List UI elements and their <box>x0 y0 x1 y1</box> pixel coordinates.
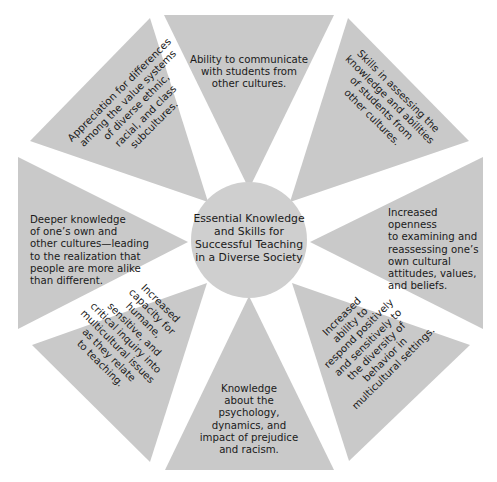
segment-label-left: Deeper knowledge of one’s own and other … <box>30 214 170 287</box>
segment-label-bottom: Knowledge about the psychology, dynamics… <box>190 383 308 456</box>
center-title: Essential Knowledge and Skills for Succe… <box>190 212 308 264</box>
